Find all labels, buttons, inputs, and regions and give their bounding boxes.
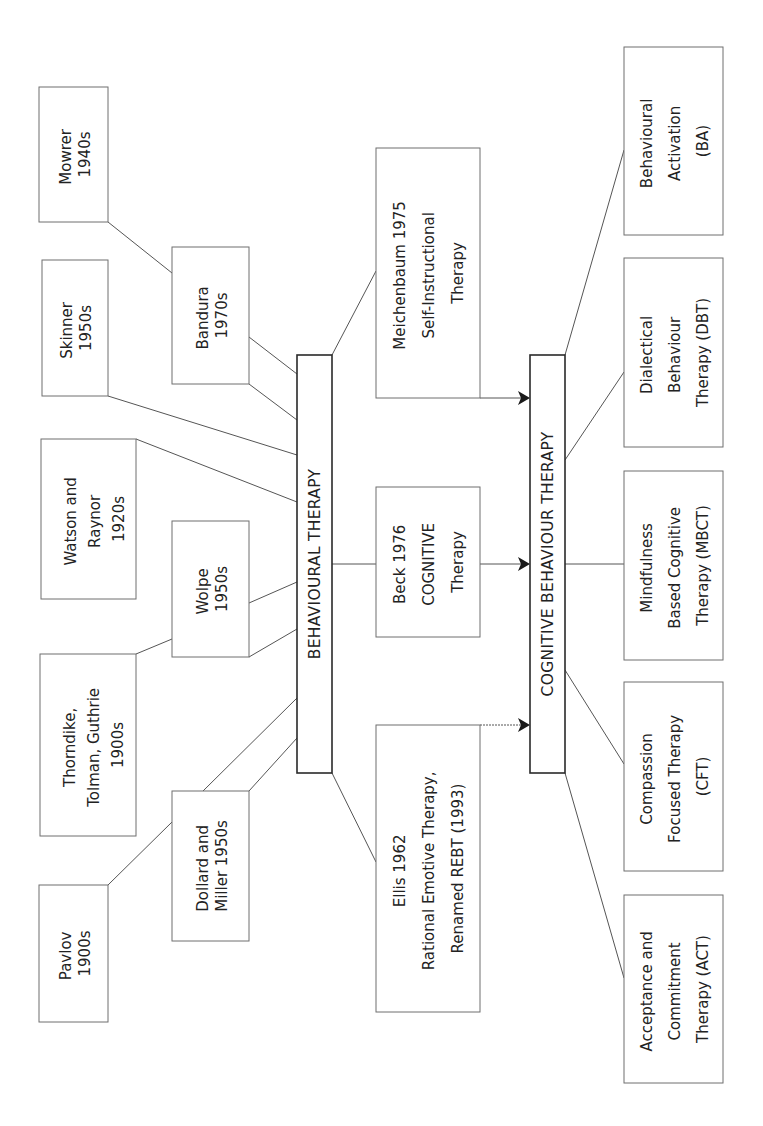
node-dollard-miller: Dollard and Miller 1950s [172, 791, 249, 941]
link-dollard-bt-2 [249, 738, 297, 791]
hub-cognitive-behaviour-therapy: COGNITIVE BEHAVIOUR THERAPY [530, 355, 565, 773]
link-cbt-ba [565, 150, 624, 355]
svg-text:Acceptance and Commitmen: Acceptance and Commitment Therapy (ACT) [638, 926, 712, 1051]
node-meichenbaum: Meichenbaum 1975 Self-Instructional Ther… [376, 148, 480, 398]
link-cbt-cft [565, 670, 624, 764]
node-label-line: Behavioural [638, 99, 656, 188]
node-label-line: 1950s [77, 305, 95, 351]
node-label-line: Therapy [449, 242, 467, 305]
node-thorndike: Thorndike, Tolman, Guthrie 1900s [40, 654, 136, 836]
node-pavlov: Pavlov 1900s [39, 885, 108, 1022]
node-label-line: Ellis 1962 [391, 835, 409, 908]
node-label-line: Compassion [638, 733, 656, 824]
link-bandura-bt [249, 337, 297, 374]
link-dollard-bt [203, 698, 297, 791]
node-label-line: 1920s [110, 496, 128, 542]
node-dbt: Dialectical Behaviour Therapy (DBT) [624, 258, 723, 447]
arrows-to-cbt [480, 391, 530, 732]
node-label-line: Based Cognitive [666, 507, 684, 629]
node-label-line: Beck 1976 [391, 525, 409, 604]
link-wolpe-bt [249, 582, 297, 603]
node-label-line: 1970s [213, 292, 231, 338]
svg-text:Mowrer 1940s: Mowrer 1940s [57, 124, 94, 184]
svg-text:Wolpe 1950s: Wolpe 1950s [194, 564, 231, 615]
node-ba: Behavioural Activation (BA) [624, 47, 723, 235]
diagram-canvas: Mowrer 1940s Skinner 1950s Bandura 1970s… [0, 0, 763, 1126]
node-label-line: Therapy (DBT) [694, 298, 712, 408]
node-label-line: Renamed REBT (1993) [449, 784, 467, 954]
hub-label: COGNITIVE BEHAVIOUR THERAPY [539, 431, 557, 696]
node-label-line: Pavlov [57, 931, 75, 980]
link-mowrer-bandura [108, 222, 172, 273]
node-act: Acceptance and Commitment Therapy (ACT) [624, 895, 723, 1083]
node-mbct: Mindfulness Based Cognitive Therapy (MBC… [624, 471, 723, 660]
node-mowrer: Mowrer 1940s [39, 87, 108, 222]
node-watson-raynor: Watson and Raynor 1920s [41, 439, 136, 599]
node-label-line: Tolman, Guthrie [85, 688, 103, 808]
link-watson-bt [136, 439, 297, 502]
node-bandura: Bandura 1970s [172, 247, 249, 384]
node-label-line: Dollard and [194, 825, 212, 912]
svg-text:Dollard and Miller 1950s: Dollard and Miller 1950s [194, 820, 231, 912]
node-label-line: 1940s [76, 131, 94, 177]
node-label-line: Miller 1950s [213, 820, 231, 912]
node-label-line: Activation [666, 106, 684, 181]
node-label-line: Meichenbaum 1975 [391, 201, 409, 350]
svg-text:Pavlov 1900s: Pavlov 1900s [57, 927, 94, 980]
node-label-line: Focused Therapy [666, 715, 684, 843]
node-label-line: Self-Instructional [420, 212, 438, 338]
svg-text:Beck 1976 COGNITIVE: Beck 1976 COGNITIVE Therapy [391, 518, 467, 606]
therapy-lineage-diagram: Mowrer 1940s Skinner 1950s Bandura 1970s… [0, 0, 763, 1126]
node-label-line: Therapy (MBCT) [694, 505, 712, 627]
node-label-line: Raynor [86, 494, 104, 548]
svg-text:Dialectical Behaviour: Dialectical Behaviour Therapy (DBT) [638, 298, 712, 408]
node-label-line: 1900s [76, 930, 94, 976]
link-cbt-act [565, 773, 624, 978]
node-label-line: Therapy [449, 531, 467, 594]
node-wolpe: Wolpe 1950s [172, 521, 249, 657]
node-label-line: Acceptance and [638, 931, 656, 1051]
node-label-line: Wolpe [194, 568, 212, 614]
svg-text:Mindfulness Based Cognit: Mindfulness Based Cognitive Therapy (MBC… [638, 502, 712, 629]
node-label-line: COGNITIVE [420, 523, 438, 606]
node-label-line: Dialectical [638, 316, 656, 394]
node-label-line: Rational Emotive Therapy, [420, 772, 438, 971]
node-label-line: Mowrer [57, 128, 75, 184]
node-label-line: Therapy (ACT) [694, 935, 712, 1044]
node-ellis: Ellis 1962 Rational Emotive Therapy, Ren… [376, 725, 480, 1012]
node-skinner: Skinner 1950s [42, 260, 108, 396]
node-label-line: Behaviour [666, 316, 684, 393]
hub-behavioural-therapy: BEHAVIOURAL THERAPY [297, 355, 332, 773]
node-label-line: Bandura [194, 286, 212, 349]
node-cft: Compassion Focused Therapy (CFT) [624, 682, 723, 871]
node-label-line: (CFT) [694, 757, 712, 797]
link-cbt-dbt [565, 372, 624, 460]
node-label-line: 1950s [213, 566, 231, 612]
hub-label: BEHAVIOURAL THERAPY [306, 468, 324, 659]
node-label-line: (BA) [694, 125, 712, 157]
link-bandura-bt-2 [249, 384, 297, 420]
svg-text:Skinner 1950s: Skinner 1950s [58, 297, 95, 359]
link-bt-ellis [332, 773, 376, 862]
node-beck: Beck 1976 COGNITIVE Therapy [376, 487, 480, 637]
node-label-line: Watson and [62, 477, 80, 565]
node-label-line: Skinner [58, 301, 76, 359]
node-label-line: Mindfulness [638, 523, 656, 613]
node-label-line: Commitment [666, 942, 684, 1040]
node-label-line: 1900s [109, 722, 127, 768]
link-bt-meichenbaum [332, 271, 376, 355]
node-label-line: Thorndike, [61, 708, 79, 788]
link-thorndike-wolpe [136, 639, 172, 654]
link-wolpe-bt-2 [249, 629, 297, 657]
